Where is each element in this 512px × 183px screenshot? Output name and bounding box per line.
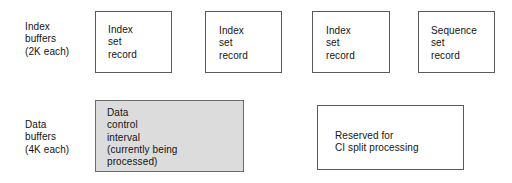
reserved-ci-split-box: Reserved for CI split processing	[317, 105, 464, 170]
data-control-interval-label: Data control interval (currently being p…	[107, 107, 178, 168]
reserved-ci-split-label: Reserved for CI split processing	[335, 130, 419, 155]
index-set-record-box-2: Index set record	[205, 11, 282, 73]
index-set-record-box-3: Index set record	[312, 11, 390, 73]
index-set-record-box-1: Index set record	[95, 11, 172, 73]
index-set-record-box-2-label: Index set record	[219, 25, 248, 62]
sequence-set-record-box-label: Sequence set record	[431, 25, 477, 62]
buffer-allocation-diagram: Index buffers (2K each) Index set record…	[0, 0, 512, 183]
index-buffers-row-label: Index buffers (2K each)	[25, 21, 69, 58]
index-set-record-box-3-label: Index set record	[326, 25, 355, 62]
sequence-set-record-box: Sequence set record	[418, 11, 495, 73]
data-control-interval-box: Data control interval (currently being p…	[95, 100, 244, 172]
data-buffers-row-label: Data buffers (4K each)	[25, 119, 69, 156]
index-set-record-box-1-label: Index set record	[108, 24, 137, 61]
